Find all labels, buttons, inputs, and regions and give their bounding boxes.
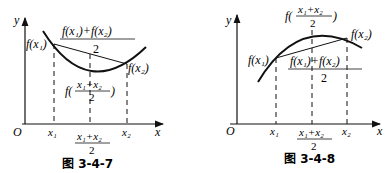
f-mid-denominator: 2	[89, 91, 95, 103]
convexity-diagrams: y x O x₁ x₂ x₁+x₂ 2 f(x₁) f(x₂) f(x₁)+f(…	[0, 0, 388, 173]
f-mid-prefix: f(	[285, 9, 293, 23]
f-x2-label: f(x₂)	[128, 61, 149, 75]
origin-label: O	[226, 124, 235, 138]
y-axis-label: y	[13, 13, 20, 27]
x2-label: x₂	[341, 125, 351, 137]
avg-numerator: f(x₁)+f(x₂)	[290, 54, 340, 68]
x2-label: x₂	[121, 126, 131, 138]
f-mid-denominator: 2	[310, 17, 316, 29]
x1-label: x₁	[269, 125, 279, 137]
avg-numerator: f(x₁)+f(x₂)	[62, 24, 112, 38]
mid-denominator: 2	[311, 140, 317, 152]
figure-right: y x O x₁ x₂ x₁+x₂ 2 f(x₁) f(x₂) f(x₁)+f(…	[225, 3, 383, 166]
f-mid-numerator: x₁+x₂	[76, 78, 102, 90]
f-mid-suffix: )	[110, 84, 115, 98]
y-axis-label: y	[225, 13, 232, 27]
f-x2-label: f(x₂)	[351, 27, 372, 41]
f-mid-prefix: f(	[65, 84, 73, 98]
f-x1-label: f(x₁)	[248, 53, 269, 67]
x-axis-label: x	[154, 125, 161, 139]
x-axis-label: x	[376, 124, 383, 138]
f-mid-suffix: )	[332, 9, 337, 23]
figure-caption: 图 3-4-8	[284, 152, 335, 166]
origin-label: O	[13, 125, 22, 139]
mid-denominator: 2	[89, 144, 95, 156]
avg-denominator: 2	[321, 71, 327, 85]
f-mid-numerator: x₁+x₂	[297, 3, 323, 15]
x1-label: x₁	[47, 126, 57, 138]
mid-numerator: x₁+x₂	[298, 126, 324, 138]
f-x1-label: f(x₁)	[26, 37, 47, 51]
figure-caption: 图 3-4-7	[62, 157, 113, 171]
figure-left: y x O x₁ x₂ x₁+x₂ 2 f(x₁) f(x₂) f(x₁)+f(…	[13, 13, 163, 171]
mid-numerator: x₁+x₂	[76, 130, 102, 142]
avg-denominator: 2	[93, 42, 99, 56]
